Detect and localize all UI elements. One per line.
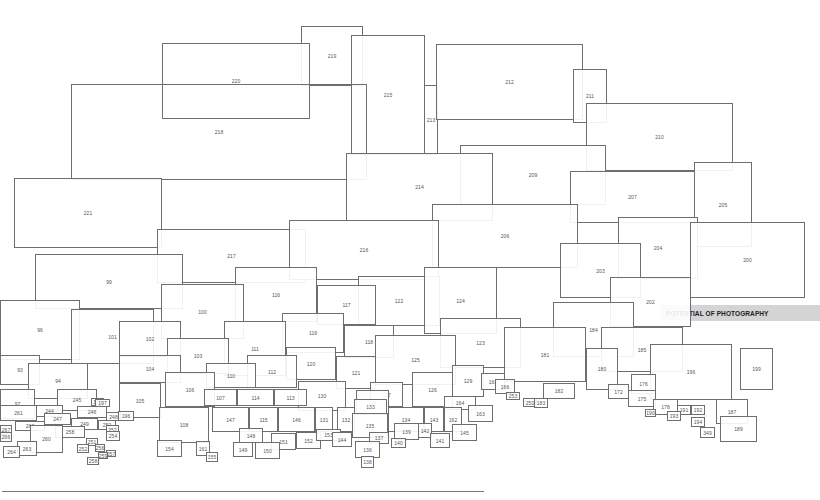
photo-box-number: 104 [146, 366, 154, 372]
photo-box-number: 215 [384, 92, 392, 98]
photo-box: 172 [608, 384, 629, 399]
photo-box-number: 148 [247, 433, 255, 439]
photo-box-number: 94 [55, 378, 61, 384]
photo-box: 258 [87, 457, 99, 465]
photo-box-number: 183 [537, 400, 545, 406]
photo-box-number: 203 [596, 268, 604, 274]
photo-box-number: 172 [614, 389, 622, 395]
photo-box: 254 [106, 431, 120, 441]
photo-box: 192 [691, 405, 705, 415]
photo-box-number: 123 [476, 340, 484, 346]
photo-box: 210 [586, 103, 733, 171]
photo-box-number: 178 [661, 404, 669, 410]
photo-box: 146 [278, 407, 315, 432]
photo-box: 207 [570, 171, 695, 223]
photo-box: 212 [436, 44, 583, 120]
photo-box: 144 [332, 432, 352, 447]
photo-box: 253 [506, 392, 520, 400]
photo-box-number: 194 [694, 419, 702, 425]
photo-box-number: 147 [226, 417, 234, 423]
photo-box-number: 193 [670, 413, 678, 419]
photo-box-number: 110 [227, 373, 235, 379]
photo-box-number: 185 [638, 347, 646, 353]
photo-box-number: 212 [505, 79, 513, 85]
photo-box-number: 151 [279, 439, 287, 445]
photo-box: 182 [543, 383, 575, 399]
photo-box-number: 135 [366, 423, 374, 429]
photo-box-number: 196 [122, 413, 130, 419]
photo-box-number: 124 [456, 298, 464, 304]
photo-box-number: 105 [136, 398, 144, 404]
photo-box-number: 161 [199, 446, 207, 452]
photo-box: 261 [0, 405, 37, 421]
photo-box-number: 181 [541, 352, 549, 358]
photo-box-number: 264 [7, 449, 15, 455]
photo-box-number: 221 [84, 210, 92, 216]
photo-box: 252 [77, 444, 89, 453]
photo-box: 246 [77, 406, 107, 418]
photo-box: 266 [0, 432, 12, 442]
photo-box-number: 248 [109, 414, 117, 420]
photo-box-number: 259 [99, 453, 107, 459]
photo-box-number: 192 [694, 407, 702, 413]
photo-box: 129 [452, 365, 484, 397]
photo-box-number: 254 [109, 433, 117, 439]
photo-box-number: 107 [216, 395, 224, 401]
photo-box-number: 252 [79, 446, 87, 452]
photo-box-number: 136 [363, 447, 371, 453]
photo-box: 264 [3, 446, 20, 458]
photo-box-number: 196 [687, 369, 695, 375]
photo-box-number: 210 [655, 134, 663, 140]
photo-box: 113 [274, 389, 307, 406]
photo-box-number: 155 [208, 454, 216, 460]
photo-box: 196 [650, 344, 732, 400]
photo-box-number: 246 [88, 409, 96, 415]
photo-box-number: 166 [501, 384, 509, 390]
photo-box: 206 [432, 204, 578, 268]
photo-box: 155 [206, 452, 218, 462]
photo-box-number: 102 [146, 336, 154, 342]
photo-box-number: 100 [198, 309, 206, 315]
photo-box: 96 [0, 300, 80, 360]
photo-box: 221 [14, 178, 162, 248]
photo-box-number: 250 [526, 400, 534, 406]
photo-box-number: 126 [428, 387, 436, 393]
photo-box-number: 211 [586, 93, 594, 99]
photo-box: 163 [468, 405, 493, 422]
photo-box-number: 213 [427, 117, 435, 123]
photo-box-number: 140 [394, 440, 402, 446]
photo-box: 199 [740, 348, 773, 390]
photo-box-number: 216 [360, 247, 368, 253]
photo-box-number: 184 [589, 327, 597, 333]
photo-box-number: 93 [17, 367, 23, 373]
photo-box: 148 [239, 428, 263, 443]
photo-box: 138 [361, 456, 374, 468]
photo-box-number: 164 [456, 400, 464, 406]
photo-box: 145 [452, 424, 477, 441]
photo-box-number: 189 [734, 426, 742, 432]
photo-box-number: 108 [180, 422, 188, 428]
photo-box-number: 116 [272, 292, 280, 298]
photo-box-number: 154 [165, 446, 173, 452]
photo-box-number: 111 [251, 346, 259, 352]
photo-box-number: 207 [628, 194, 636, 200]
photo-box-number: 263 [23, 446, 31, 452]
photo-box-number: 190 [646, 410, 654, 416]
photo-box-number: 144 [338, 437, 346, 443]
photo-box-number: 132 [342, 417, 350, 423]
photo-box-number: 245 [73, 397, 81, 403]
photo-box: 190 [645, 409, 656, 417]
photo-box-number: 125 [411, 357, 419, 363]
photo-box-number: 130 [318, 393, 326, 399]
photo-box-number: 200 [743, 257, 751, 263]
photo-box-number: 117 [343, 302, 351, 308]
photo-box-number: 162 [449, 417, 457, 423]
photo-box-number: 145 [460, 430, 468, 436]
photo-box-number: 217 [227, 253, 235, 259]
photo-box-number: 133 [366, 404, 374, 410]
photo-box-number: 349 [703, 430, 711, 436]
photo-box: 181 [504, 327, 586, 382]
photo-box: 189 [720, 416, 757, 442]
photo-box: 193 [667, 411, 681, 421]
photo-box: 154 [157, 440, 182, 457]
